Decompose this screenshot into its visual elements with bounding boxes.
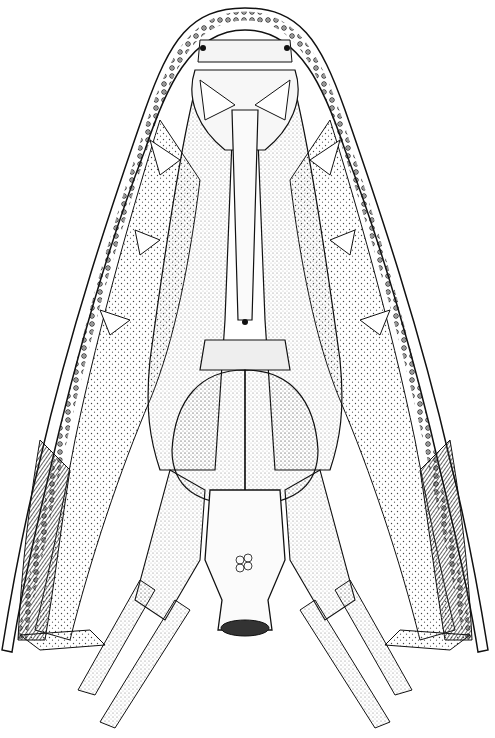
branchial-ray [100,600,190,728]
premaxillary-region [198,40,292,62]
skull-illustration [0,0,495,738]
nostril-right [284,45,290,51]
parasphenoid [232,110,258,320]
branchial-ray [300,600,390,728]
hyoid-opening [221,620,269,636]
basisphenoid [200,340,290,370]
parasphenoid-foramen [242,319,248,325]
illustration-canvas [0,0,495,738]
nostril-left [200,45,206,51]
